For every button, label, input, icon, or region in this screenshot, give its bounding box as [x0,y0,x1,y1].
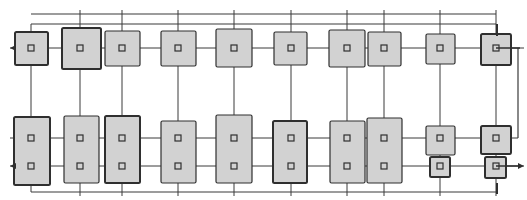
top-footing [216,29,252,67]
column-footing-plan [0,0,527,200]
bottom-footing [273,121,307,183]
top-footing [368,32,401,66]
left-arrow-icon [10,45,16,51]
bottom-footing [105,116,140,183]
top-footing [62,28,101,69]
bottom-footing [481,126,511,154]
bottom-footing [430,157,450,177]
top-footing [15,32,48,65]
bottom-footing [64,116,99,183]
top-footing [105,31,140,66]
top-footing [329,30,365,67]
bottom-footing [330,121,365,183]
top-footing [161,31,196,66]
bottom-footing [161,121,196,183]
bottom-footing [485,157,506,178]
structural-grid-diagram [0,0,527,200]
bottom-footing [14,117,50,185]
bottom-footing [216,115,252,183]
top-footing [274,32,307,65]
top-footing [426,34,455,64]
top-footing [481,34,511,65]
bottom-footing [367,118,402,183]
